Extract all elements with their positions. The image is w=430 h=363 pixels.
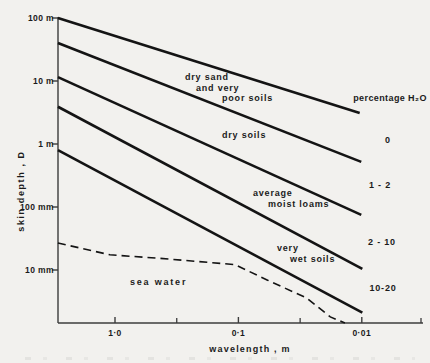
band-label-very-wet-line1: very — [277, 243, 299, 253]
y-tick-label: 100 mm — [0, 202, 54, 212]
percent-value-0: 0 — [358, 135, 418, 145]
y-axis-title: skin depth , D — [16, 131, 26, 251]
soil-boundary-line — [58, 77, 361, 215]
y-tick-label: 100 m — [0, 13, 54, 23]
y-tick-label: 1 m — [0, 139, 54, 149]
band-label-dry-sand-line3: poor soils — [222, 93, 273, 103]
band-label-very-wet-line2: wet soils — [290, 254, 335, 264]
x-tick-label: 0·1 — [213, 328, 263, 338]
percent-value-2-10: 2 - 10 — [352, 237, 412, 247]
band-label-dry-soils: dry soils — [222, 130, 266, 140]
band-label-average-line2: moist loams — [268, 199, 329, 209]
y-tick-label: 10 m — [0, 76, 54, 86]
percent-value-1-2: 1 - 2 — [350, 180, 410, 190]
y-tick-label: 10 mm — [0, 265, 54, 275]
percent-column-header: percentage H₂O — [350, 93, 430, 103]
skin-depth-vs-wavelength-figure: skin depth , D wavelength , m dry sand a… — [0, 0, 430, 363]
percent-value-10-20: 10-20 — [353, 283, 413, 293]
soil-boundary-line — [58, 43, 361, 162]
cropped-caption-fragment — [25, 357, 415, 360]
x-tick-label: 1·0 — [90, 328, 140, 338]
x-axis-title: wavelength , m — [190, 344, 310, 354]
soil-boundary-line — [58, 107, 362, 269]
x-tick-label: 0·01 — [337, 328, 387, 338]
band-label-sea-water: sea water — [130, 277, 187, 287]
soil-boundary-line — [58, 150, 362, 313]
band-label-dry-sand-line2: and very — [196, 83, 239, 93]
band-label-average-line1: average — [253, 188, 293, 198]
band-label-dry-sand-line1: dry sand — [185, 72, 229, 82]
